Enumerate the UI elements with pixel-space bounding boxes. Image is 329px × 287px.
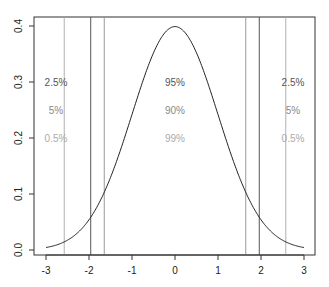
y-tick-label: 0.0	[13, 243, 24, 257]
annotation-right: 2.5%	[282, 77, 305, 88]
y-tick-label: 0.2	[13, 131, 24, 145]
annotation-right: 5%	[286, 105, 301, 116]
x-tick-label: 2	[258, 265, 264, 276]
annotation-center: 90%	[165, 105, 185, 116]
percentage-annotations: 2.5%5%0.5%95%90%99%2.5%5%0.5%	[45, 77, 305, 144]
x-tick-label: 0	[172, 265, 178, 276]
annotation-center: 99%	[165, 133, 185, 144]
y-tick-label: 0.1	[13, 187, 24, 201]
annotation-center: 95%	[165, 77, 185, 88]
annotation-left: 5%	[49, 105, 64, 116]
x-tick-label: -3	[42, 265, 51, 276]
annotation-right: 0.5%	[282, 133, 305, 144]
y-axis: 0.00.10.20.30.4	[13, 19, 34, 257]
y-tick-label: 0.3	[13, 75, 24, 89]
x-tick-label: 3	[301, 265, 307, 276]
y-tick-label: 0.4	[13, 19, 24, 33]
x-tick-label: -2	[85, 265, 94, 276]
x-axis: -3-2-10123	[42, 255, 308, 276]
x-tick-label: 1	[215, 265, 221, 276]
annotation-left: 0.5%	[45, 133, 68, 144]
chart-svg: -3-2-10123 0.00.10.20.30.4 2.5%5%0.5%95%…	[0, 0, 329, 287]
x-tick-label: -1	[128, 265, 137, 276]
annotation-left: 2.5%	[45, 77, 68, 88]
